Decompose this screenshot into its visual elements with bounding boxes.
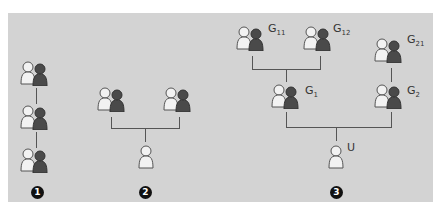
scenario-badge-2: 2 xyxy=(139,186,152,199)
label-g12: G12 xyxy=(333,22,350,37)
scenario-badge-3: 3 xyxy=(330,186,343,199)
connector-line xyxy=(36,88,37,104)
connector-line xyxy=(286,112,287,128)
connector-line xyxy=(286,69,287,82)
user-icon xyxy=(137,144,155,170)
group-icon-g2 xyxy=(374,83,408,109)
group-icon xyxy=(20,104,54,130)
group-icon xyxy=(20,60,54,86)
label-g2: G2 xyxy=(407,84,420,99)
user-icon-u xyxy=(327,144,345,170)
connector-line xyxy=(391,112,392,128)
diagram-panel xyxy=(8,13,433,202)
group-icon-g11 xyxy=(236,25,270,51)
group-icon-g12 xyxy=(303,25,337,51)
group-icon-g1 xyxy=(271,83,305,109)
connector-line xyxy=(391,68,392,82)
connector-line xyxy=(320,56,321,70)
label-g21: G21 xyxy=(407,33,424,48)
label-g1: G1 xyxy=(305,84,318,99)
label-u: U xyxy=(347,141,355,154)
group-icon xyxy=(20,147,54,173)
connector-line xyxy=(336,127,337,141)
connector-line xyxy=(145,128,146,142)
connector-line xyxy=(286,127,392,128)
connector-line xyxy=(252,56,253,70)
group-icon xyxy=(97,86,131,112)
group-icon xyxy=(163,86,197,112)
group-icon-g21 xyxy=(374,37,408,63)
label-g11: G11 xyxy=(268,22,285,37)
scenario-badge-1: 1 xyxy=(31,186,44,199)
connector-line xyxy=(36,132,37,148)
